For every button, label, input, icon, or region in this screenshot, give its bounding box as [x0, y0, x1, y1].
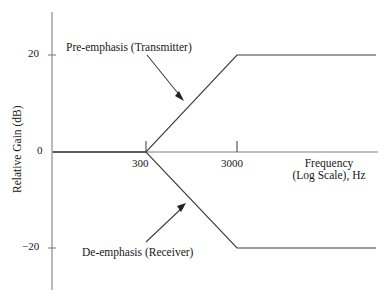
- de-emphasis-annotation-label: De-emphasis (Receiver): [82, 246, 193, 258]
- x-axis-title: Frequency (Log Scale), Hz: [277, 157, 381, 182]
- y-tick-label-0: 0: [37, 145, 43, 157]
- pre-emphasis-curve: [53, 55, 376, 152]
- de-emphasis-arrow-head: [177, 203, 186, 212]
- pre-emphasis-de-emphasis-chart: 20 0 −20 300 3000 Relative Gain (dB) Fre…: [0, 0, 384, 302]
- pre-emphasis-arrow-head: [175, 91, 184, 101]
- pre-emphasis-arrow-shaft: [147, 55, 181, 97]
- pre-emphasis-annotation-label: Pre-emphasis (Transmitter): [66, 41, 192, 53]
- x-tick-label-300: 300: [132, 158, 149, 170]
- y-tick-label-neg20: −20: [22, 241, 39, 253]
- x-tick-label-3000: 3000: [221, 158, 243, 170]
- y-axis-title: Relative Gain (dB): [11, 89, 23, 209]
- x-axis-title-line1: Frequency: [277, 157, 381, 169]
- y-tick-label-20: 20: [28, 48, 39, 60]
- de-emphasis-arrow-shaft: [146, 207, 183, 242]
- x-axis-title-line2: (Log Scale), Hz: [277, 169, 381, 181]
